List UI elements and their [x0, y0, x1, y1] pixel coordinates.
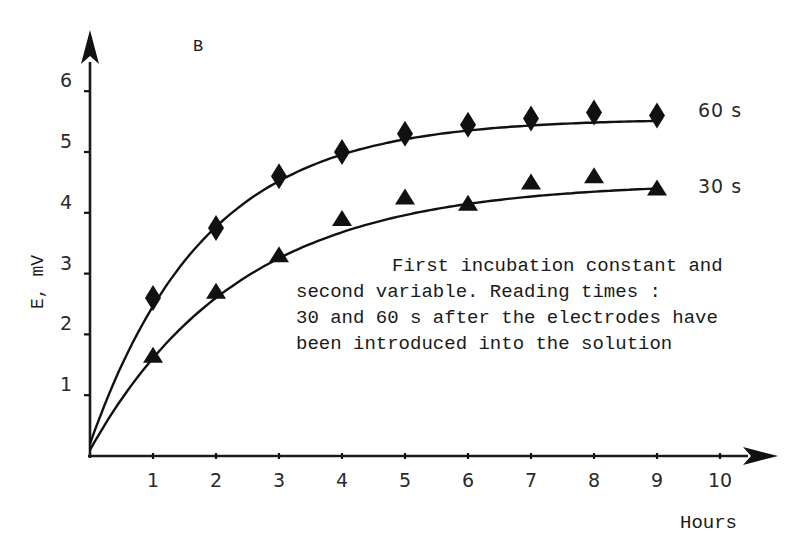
x-tick-label: 9: [651, 469, 663, 491]
x-tick-label: 1: [147, 469, 159, 491]
diamond-marker-icon: [649, 103, 665, 129]
x-axis-arrow-icon: [743, 447, 778, 465]
panel-label: B: [193, 37, 203, 56]
x-axis: 12345678910: [88, 447, 778, 491]
annotation: First incubation constant and second var…: [296, 255, 723, 355]
y-tick-label: 3: [60, 252, 72, 274]
y-axis: 123456: [60, 30, 99, 458]
triangle-marker-icon: [521, 173, 541, 189]
diamond-marker-icon: [208, 215, 224, 241]
diamond-marker-icon: [397, 121, 413, 147]
series-label-30s: 30 s: [698, 175, 742, 197]
y-tick-label: 5: [60, 130, 72, 152]
diamond-marker-icon: [145, 285, 161, 311]
x-tick-label: 3: [273, 469, 285, 491]
series-label-60s: 60 s: [698, 99, 742, 121]
annotation-line-1: First incubation constant and: [392, 255, 723, 277]
x-tick-label: 6: [462, 469, 474, 491]
y-axis-arrow-icon: [81, 30, 99, 64]
triangle-marker-icon: [206, 283, 226, 299]
triangle-marker-icon: [647, 179, 667, 195]
triangle-marker-icon: [332, 210, 352, 226]
y-tick-label: 1: [60, 373, 72, 395]
diamond-marker-icon: [334, 139, 350, 165]
y-axis-label: E, mV: [28, 255, 48, 309]
annotation-line-3: 30 and 60 s after the electrodes have: [296, 307, 718, 329]
chart: 123456 12345678910 B Hours E, mV 60 s 30…: [0, 0, 801, 536]
diamond-marker-icon: [460, 112, 476, 138]
diamond-marker-icon: [523, 106, 539, 132]
x-axis-label: Hours: [680, 512, 737, 534]
x-tick-label: 5: [399, 469, 411, 491]
y-tick-label: 4: [60, 191, 72, 213]
x-tick-label: 4: [336, 469, 348, 491]
triangle-marker-icon: [395, 189, 415, 205]
y-tick-label: 6: [60, 69, 72, 91]
triangle-marker-icon: [584, 167, 604, 183]
annotation-line-4: been introduced into the solution: [296, 333, 672, 355]
x-tick-label: 7: [525, 469, 537, 491]
x-tick-label: 8: [588, 469, 600, 491]
y-tick-label: 2: [60, 312, 72, 334]
annotation-line-2: second variable. Reading times :: [296, 281, 661, 303]
x-tick-label: 10: [708, 469, 732, 491]
x-tick-label: 2: [210, 469, 222, 491]
